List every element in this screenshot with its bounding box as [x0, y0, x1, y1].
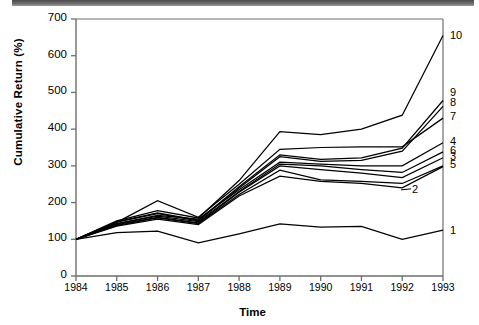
y-tick-label: 600: [27, 48, 67, 60]
series-line-6: [76, 152, 443, 239]
series-line-4: [76, 143, 443, 240]
series-label-2: 2: [412, 183, 418, 195]
x-tick-label: 1987: [176, 281, 220, 293]
series-line-3: [76, 158, 443, 240]
label-leader-lines: [401, 189, 411, 190]
line-chart-plot: [0, 0, 479, 325]
y-tick-marks: [71, 19, 76, 276]
series-label-1: 1: [450, 224, 456, 236]
x-tick-label: 1992: [380, 281, 424, 293]
series-line-8: [76, 106, 443, 239]
x-tick-label: 1988: [217, 281, 261, 293]
series-line-10: [76, 36, 443, 240]
x-tick-label: 1990: [299, 281, 343, 293]
series-line-1: [76, 224, 443, 243]
x-tick-label: 1993: [421, 281, 465, 293]
y-tick-label: 700: [27, 11, 67, 23]
chart-figure: Cumulative Return (%) Time 0100200300400…: [0, 0, 479, 325]
x-tick-label: 1989: [258, 281, 302, 293]
y-axis-title: Cumulative Return (%): [12, 22, 24, 182]
x-axis-title: Time: [60, 306, 445, 318]
series-lines: [76, 36, 443, 243]
y-tick-label: 500: [27, 84, 67, 96]
chart-axes: [76, 19, 443, 276]
x-tick-label: 1986: [136, 281, 180, 293]
x-tick-label: 1984: [54, 281, 98, 293]
y-tick-label: 0: [27, 268, 67, 280]
x-tick-label: 1991: [339, 281, 383, 293]
x-tick-label: 1985: [95, 281, 139, 293]
series-label-7: 7: [450, 110, 456, 122]
series-label-5: 5: [450, 158, 456, 170]
y-tick-label: 400: [27, 121, 67, 133]
y-tick-label: 300: [27, 158, 67, 170]
y-tick-label: 100: [27, 231, 67, 243]
series-label-10: 10: [450, 29, 462, 41]
series-label-8: 8: [450, 96, 456, 108]
y-tick-label: 200: [27, 195, 67, 207]
